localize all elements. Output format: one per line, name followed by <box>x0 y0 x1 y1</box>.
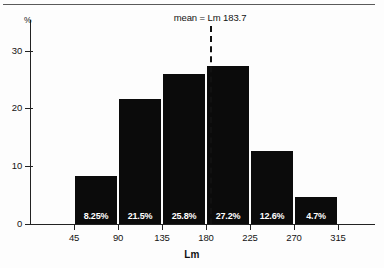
bar-135-180: 25.8% <box>163 74 205 224</box>
bar-label-180-225: 27.2% <box>207 211 249 221</box>
mean-line <box>210 26 212 224</box>
mean-annotation-label: mean = Lm 183.7 <box>130 13 290 23</box>
bar-label-225-270: 12.6% <box>251 211 293 221</box>
bar-45-90: 8.25% <box>75 176 117 224</box>
bar-180-225: 27.2% <box>207 66 249 224</box>
bar-label-90-135: 21.5% <box>119 211 161 221</box>
bar-label-135-180: 25.8% <box>163 211 205 221</box>
bar-270-315: 4.7% <box>295 197 337 224</box>
bar-90-135: 21.5% <box>119 99 161 224</box>
plot-area: 8.25% 21.5% 25.8% 27.2% 12.6% 4.7% <box>0 0 384 268</box>
histogram-figure: % 0 10 20 30 45 90 135 180 225 270 315 L… <box>0 0 384 268</box>
bar-225-270: 12.6% <box>251 151 293 224</box>
bar-label-45-90: 8.25% <box>75 211 117 221</box>
bar-label-270-315: 4.7% <box>295 211 337 221</box>
